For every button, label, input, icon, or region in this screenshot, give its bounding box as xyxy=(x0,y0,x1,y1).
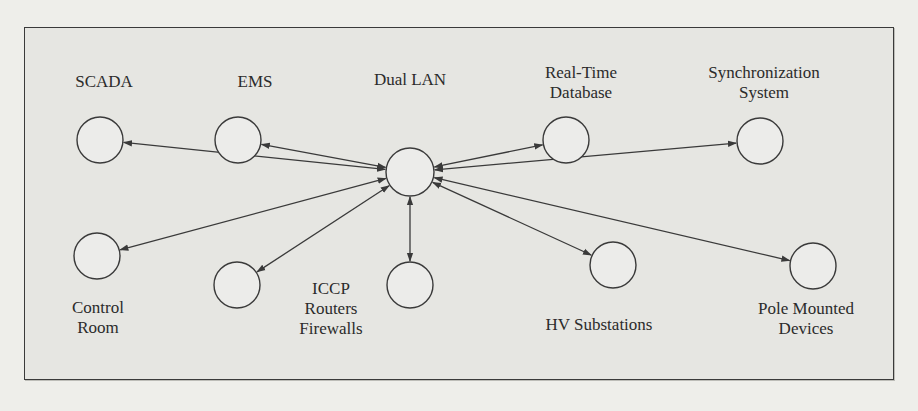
edge-real-time-database xyxy=(434,145,542,167)
hub-label: Dual LAN xyxy=(374,70,446,90)
network-diagram: Dual LAN SCADA EMS Real-Time Database Sy… xyxy=(0,0,918,411)
nodes-group xyxy=(74,117,836,308)
node-iccp-routers-firewalls xyxy=(387,262,433,308)
node-label-pole-mounted-devices: Pole Mounted Devices xyxy=(758,299,854,339)
edge-ems xyxy=(262,144,386,167)
node-label-control-room: Control Room xyxy=(72,298,124,338)
node-synchronization-system xyxy=(737,118,783,164)
node-label-real-time-database: Real-Time Database xyxy=(545,63,617,103)
node-iccp-left xyxy=(214,262,260,308)
node-label-synchronization-system: Synchronization System xyxy=(708,63,819,103)
node-label-hv-substations: HV Substations xyxy=(546,315,653,335)
node-real-time-database xyxy=(543,117,589,163)
node-label-ems: EMS xyxy=(238,72,273,92)
node-control-room xyxy=(74,233,120,279)
edge-iccp-left xyxy=(257,186,389,272)
node-pole-mounted-devices xyxy=(790,243,836,289)
node-scada xyxy=(77,117,123,163)
node-dual-lan xyxy=(386,148,434,196)
node-hv-substations xyxy=(590,242,636,288)
node-label-iccp-routers-firewalls: ICCP Routers Firewalls xyxy=(299,279,362,339)
connections-layer xyxy=(0,0,918,411)
edge-hv-substations xyxy=(433,182,591,255)
edges-group xyxy=(120,142,789,271)
node-ems xyxy=(215,117,261,163)
node-label-scada: SCADA xyxy=(75,72,133,92)
